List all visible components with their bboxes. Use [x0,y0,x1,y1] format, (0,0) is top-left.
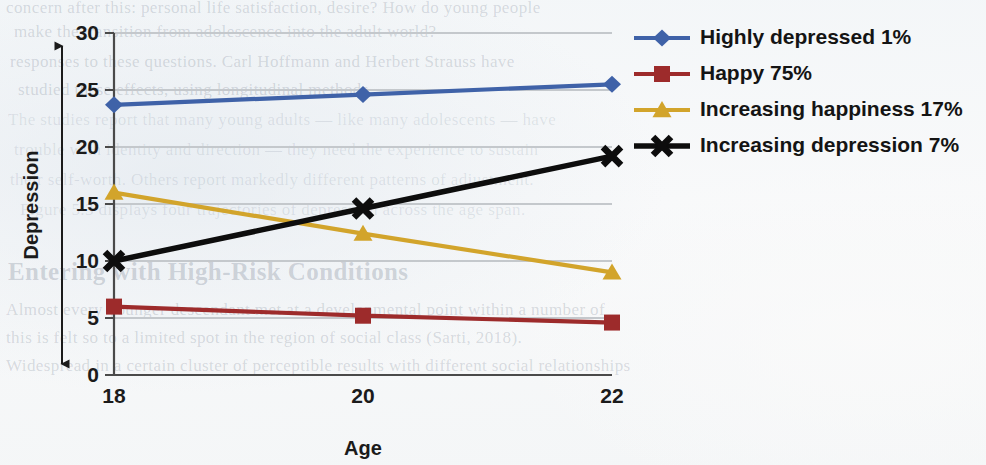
y-axis-tick-label: 20 [76,135,99,158]
data-series [106,299,620,331]
y-axis-tick-label: 10 [76,249,99,272]
legend-swatch-diamond[interactable] [634,30,690,47]
legend-label-happy[interactable]: Happy 75% [700,62,812,83]
legend-swatch-x[interactable] [634,137,690,155]
gridlines [114,33,612,318]
data-series [105,147,621,270]
y-axis-tick-label: 15 [76,192,100,215]
y-axis-tick-label: 25 [76,78,100,101]
y-axis-tick-label: 5 [87,306,99,329]
data-series-layer [105,76,622,331]
x-axis-tick-label: 18 [102,384,126,407]
legend-swatch-triangle[interactable] [634,101,690,117]
legend-label-increasing-depression[interactable]: Increasing depression 7% [700,134,959,155]
legend-label-highly-depressed[interactable]: Highly depressed 1% [700,26,911,47]
y-axis-tick-labels: 051015202530 [76,21,100,386]
y-axis-tick-label: 30 [76,21,99,44]
data-point-marker-diamond [105,96,123,113]
y-axis-title: Depression [20,151,42,260]
chart-figure: concern after this: personal life satisf… [0,0,986,465]
data-series [105,184,622,280]
data-point-marker-diamond [653,30,671,47]
x-axis-tick-label: 20 [351,384,374,407]
legend-swatches [634,30,690,156]
x-axis-title: Age [344,437,382,459]
y-axis-tick-label: 0 [87,363,99,386]
y-axis-ticks [105,33,114,375]
x-axis-tick-labels: 182022 [102,384,623,407]
legend-swatch-square[interactable] [634,66,690,82]
legend-label-increasing-happiness[interactable]: Increasing happiness 17% [700,98,963,119]
data-point-marker-square [355,308,371,324]
x-axis-tick-label: 22 [600,384,623,407]
data-point-marker-square [604,315,620,331]
data-point-marker-diamond [354,86,372,103]
data-point-marker-square [654,66,670,82]
line-chart-plot: 051015202530 182022 Depression Age [0,0,986,465]
data-series [105,76,621,114]
data-point-marker-square [106,299,122,315]
